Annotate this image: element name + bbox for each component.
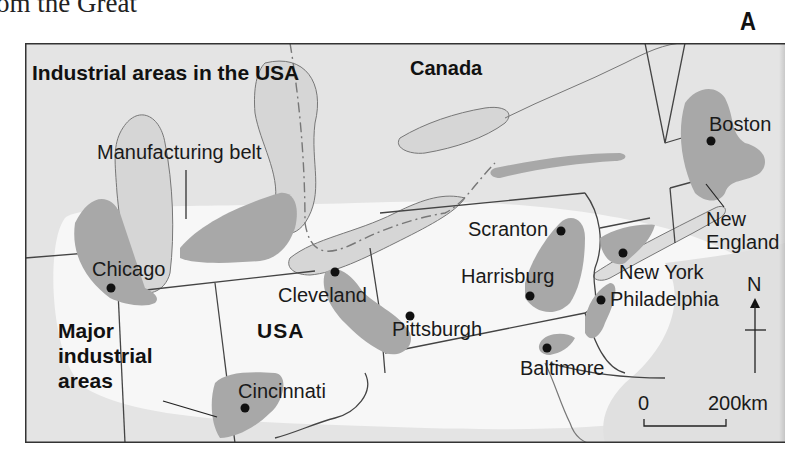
scale-bar-start-label: 0 <box>638 392 649 414</box>
city-dot-philadelphia <box>597 296 606 305</box>
region-label-manufacturing-belt: Manufacturing belt <box>97 141 262 163</box>
city-label-harrisburg: Harrisburg <box>461 265 554 287</box>
figure-letter: A <box>740 6 756 37</box>
city-dot-baltimore <box>543 344 552 353</box>
city-label-cleveland: Cleveland <box>278 284 367 306</box>
legend-label-line2: industrial <box>58 344 153 367</box>
legend-label-line1: Major <box>58 319 114 342</box>
city-dot-new-york <box>619 249 628 258</box>
page-caption-fragment: om the Great <box>0 0 137 19</box>
city-label-chicago: Chicago <box>92 258 165 280</box>
city-dot-chicago <box>107 284 116 293</box>
region-label-new-england-line1: New <box>706 208 747 230</box>
city-dot-scranton <box>557 227 566 236</box>
page-edge-shadow <box>779 43 785 443</box>
city-dot-boston <box>707 137 716 146</box>
city-label-cincinnati: Cincinnati <box>238 380 326 402</box>
industrial-areas-map: Industrial areas in the USA Canada USA M… <box>25 43 785 443</box>
city-dot-cleveland <box>331 268 340 277</box>
city-label-new-york: New York <box>619 261 704 283</box>
map-title: Industrial areas in the USA <box>32 61 299 84</box>
country-label-usa: USA <box>257 319 304 342</box>
city-label-scranton: Scranton <box>468 218 548 240</box>
city-dot-cincinnati <box>241 404 250 413</box>
city-label-pittsburgh: Pittsburgh <box>392 318 482 340</box>
region-label-new-england-line2: England <box>706 231 779 253</box>
country-label-canada: Canada <box>410 57 483 79</box>
city-label-philadelphia: Philadelphia <box>610 288 720 310</box>
north-arrow-label: N <box>747 273 761 295</box>
scale-bar-end-label: 200km <box>708 392 768 414</box>
city-label-boston: Boston <box>709 113 771 135</box>
city-dot-harrisburg <box>526 292 535 301</box>
legend-label-line3: areas <box>58 369 113 392</box>
city-label-baltimore: Baltimore <box>520 357 604 379</box>
